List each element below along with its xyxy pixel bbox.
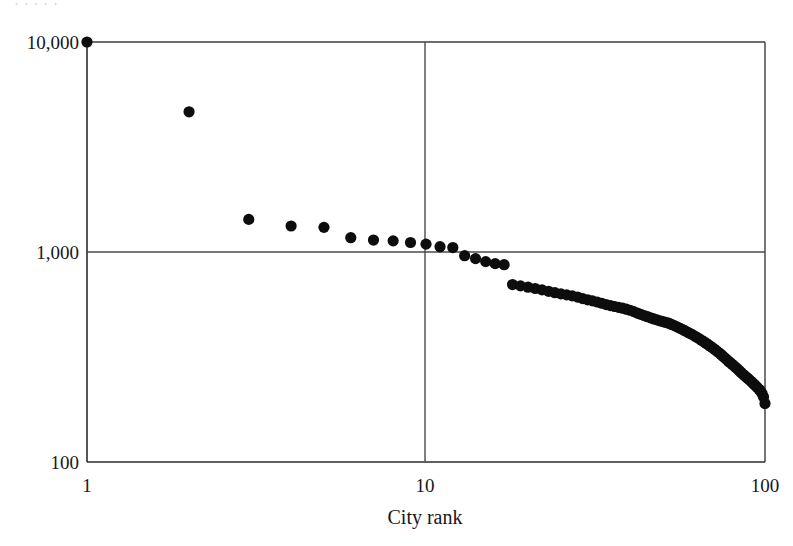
data-point xyxy=(759,398,770,409)
data-point xyxy=(243,214,254,225)
x-axis-tick-labels: 1 10 100 xyxy=(82,475,779,496)
data-point xyxy=(499,259,510,270)
data-point xyxy=(420,239,431,250)
data-point xyxy=(286,220,297,231)
y-tick-label-10000: 10,000 xyxy=(27,32,79,53)
data-point xyxy=(459,250,470,261)
data-point xyxy=(405,237,416,248)
x-tick-label-1: 1 xyxy=(82,475,92,496)
data-point xyxy=(470,253,481,264)
data-point xyxy=(81,36,92,47)
data-points-layer xyxy=(81,36,770,409)
data-point xyxy=(434,241,445,252)
gridlines xyxy=(87,42,765,462)
y-tick-label-1000: 1,000 xyxy=(36,242,79,263)
data-point xyxy=(345,232,356,243)
data-point xyxy=(183,106,194,117)
x-tick-label-100: 100 xyxy=(751,475,780,496)
chart-container: · · · · · 10,000 1,000 100 1 10 100 xyxy=(0,0,793,546)
x-axis-title: City rank xyxy=(388,506,463,529)
data-point xyxy=(388,235,399,246)
data-point xyxy=(447,242,458,253)
data-point xyxy=(368,234,379,245)
y-axis-tick-labels: 10,000 1,000 100 xyxy=(27,32,79,473)
data-point xyxy=(318,222,329,233)
population-rank-log-log-scatter-plot: 10,000 1,000 100 1 10 100 City rank xyxy=(0,0,793,546)
y-tick-label-100: 100 xyxy=(51,452,80,473)
x-tick-label-10: 10 xyxy=(416,475,435,496)
data-point xyxy=(480,256,491,267)
